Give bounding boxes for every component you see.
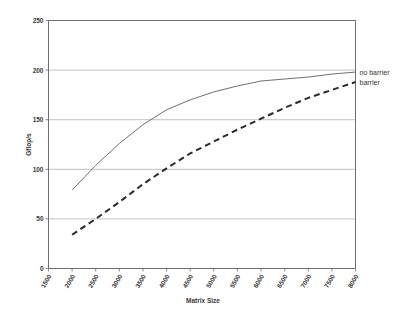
y-tick-label-100: 100 <box>33 166 44 173</box>
x-tick-label-7000: 7000 <box>299 273 312 289</box>
legend-group: no barrierbarrier <box>360 69 391 86</box>
x-tick-label-2500: 2500 <box>87 273 100 289</box>
y-tick-label-200: 200 <box>33 67 44 74</box>
y-tick-label-0: 0 <box>40 265 44 272</box>
data-series-group <box>72 72 355 235</box>
x-tick-label-6500: 6500 <box>275 273 288 289</box>
x-tick-label-6000: 6000 <box>252 273 265 289</box>
x-tick-labels-group: 1500200025003000350040004500500055006000… <box>39 273 359 289</box>
chart-container: 050100150200250 150020002500300035004000… <box>0 0 406 319</box>
x-tick-label-5000: 5000 <box>205 273 218 289</box>
x-tick-label-5500: 5500 <box>228 273 241 289</box>
x-tick-label-7500: 7500 <box>323 273 336 289</box>
legend-label-barrier: barrier <box>360 79 381 86</box>
x-tick-label-3500: 3500 <box>134 273 147 289</box>
axes-lines-group <box>49 21 356 269</box>
legend-label-no-barrier: no barrier <box>360 69 391 76</box>
y-tick-label-250: 250 <box>33 17 44 24</box>
x-tick-label-1500: 1500 <box>39 273 52 289</box>
x-axis-title: Matrix Size <box>186 297 220 304</box>
y-tick-label-150: 150 <box>33 116 44 123</box>
x-tick-label-3000: 3000 <box>110 273 123 289</box>
series-line-barrier <box>72 82 355 235</box>
gridlines-group <box>49 21 356 219</box>
y-axis-title: Gflop/s <box>25 133 33 156</box>
line-chart: 050100150200250 150020002500300035004000… <box>0 0 406 319</box>
x-tick-label-8000: 8000 <box>346 273 359 289</box>
y-tick-label-50: 50 <box>36 215 44 222</box>
x-tick-label-4500: 4500 <box>181 273 194 289</box>
series-line-no-barrier <box>72 72 355 190</box>
y-tick-labels-group: 050100150200250 <box>33 17 44 272</box>
x-tick-label-4000: 4000 <box>157 273 170 289</box>
x-tick-label-2000: 2000 <box>63 273 76 289</box>
